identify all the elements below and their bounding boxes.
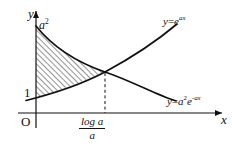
fraction: log a a bbox=[79, 116, 105, 141]
y-axis-label: y bbox=[28, 7, 34, 20]
x-axis-label: x bbox=[221, 113, 227, 126]
y-intercept-one-label: 1 bbox=[24, 86, 31, 99]
decaying-exponent: -ax bbox=[192, 94, 201, 101]
origin-label: O bbox=[21, 115, 30, 128]
math-figure: y x O a2 1 y=eax y=a2e-ax log a a bbox=[0, 0, 232, 151]
curve-label-decaying-exponential: y=a2e-ax bbox=[167, 95, 201, 107]
fraction-denominator: a bbox=[79, 129, 105, 141]
rising-exponent: ax bbox=[179, 14, 185, 21]
graph-canvas bbox=[0, 0, 232, 151]
x-tick-label-intersection: log a a bbox=[79, 116, 105, 141]
curve-label-rising-exponential: y=eax bbox=[163, 15, 185, 27]
fraction-numerator: log a bbox=[79, 116, 105, 129]
a-squared-exponent: 2 bbox=[45, 17, 49, 26]
y-intercept-a-squared-label: a2 bbox=[39, 18, 49, 31]
